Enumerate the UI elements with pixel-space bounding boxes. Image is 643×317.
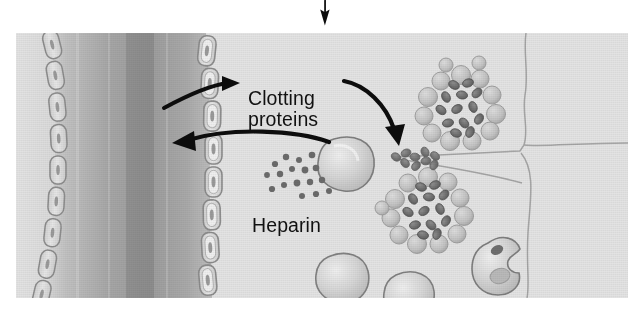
illustration-svg <box>16 33 628 298</box>
arrow-down-icon <box>313 0 337 26</box>
tissue-cell-left <box>316 253 369 298</box>
label-heparin: Heparin <box>252 215 321 236</box>
blood-vessel-lumen <box>46 33 212 298</box>
figure-canvas: Clotting proteins Heparin <box>0 0 643 317</box>
illustration-panel: Clotting proteins Heparin <box>16 33 628 298</box>
label-clotting-proteins: Clotting proteins <box>248 88 318 130</box>
